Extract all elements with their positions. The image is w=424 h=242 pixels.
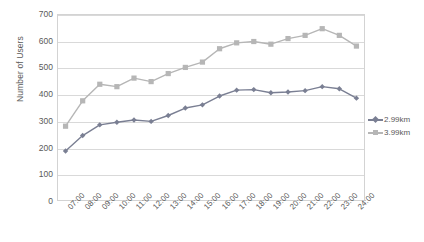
y-axis-tick-labels: 0100200300400500600700 [3,14,53,201]
gridline [58,95,364,96]
y-axis-tick-label: 300 [9,116,53,126]
y-axis-tick-label: 100 [9,169,53,179]
gridline [58,68,364,69]
chart-legend: 2.99km3.99km [368,113,424,139]
y-axis-tick-label: 200 [9,143,53,153]
y-axis-tick-label: 400 [9,89,53,99]
gridline [58,149,364,150]
legend-label: 2.99km [384,114,410,125]
plot-area [57,14,365,201]
gridline [58,122,364,123]
legend-item-3.99km[interactable]: 3.99km [368,126,424,139]
x-axis-tick-labels: 07:0008:0009:0010:0011:0012:0013:0014:00… [57,201,365,242]
legend-key-icon [368,114,383,125]
legend-item-2.99km[interactable]: 2.99km [368,113,424,126]
users-by-hour-line-chart: Number of Users 0100200300400500600700 0… [0,0,424,242]
gridline [58,42,364,43]
y-axis-tick-label: 700 [9,9,53,19]
legend-key-icon [368,127,383,138]
gridline [58,175,364,176]
y-axis-tick-label: 0 [9,196,53,206]
y-axis-tick-label: 500 [9,62,53,72]
gridline [58,15,364,16]
y-axis-tick-label: 600 [9,36,53,46]
legend-label: 3.99km [384,127,410,138]
